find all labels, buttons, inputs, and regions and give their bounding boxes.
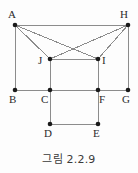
vertex-label-d: D xyxy=(44,128,52,139)
vertex-label-g: G xyxy=(122,94,130,105)
vertex-point-c xyxy=(48,88,53,93)
vertex-point-e xyxy=(96,122,101,127)
vertex-label-h: H xyxy=(120,9,128,20)
vertex-label-a: A xyxy=(8,9,16,20)
geometry-figure: AHJIBCFGDE 그림 2.2.9 xyxy=(0,0,138,173)
vertex-label-f: F xyxy=(99,94,105,105)
edge-H-J xyxy=(50,25,128,59)
vertex-label-c: C xyxy=(41,94,48,105)
edge-A-I xyxy=(15,25,98,59)
edge-A-J xyxy=(15,25,50,59)
vertex-label-j: J xyxy=(38,55,42,66)
vertex-point-j xyxy=(48,57,53,62)
vertex-point-h xyxy=(126,23,131,28)
vertex-point-i xyxy=(96,57,101,62)
figure-caption: 그림 2.2.9 xyxy=(0,150,138,166)
vertex-label-e: E xyxy=(93,128,100,139)
vertex-point-d xyxy=(48,122,53,127)
vertex-layer xyxy=(13,23,131,127)
vertex-label-i: I xyxy=(102,55,106,66)
edge-layer xyxy=(15,25,128,124)
vertex-label-b: B xyxy=(9,94,16,105)
vertex-point-f xyxy=(96,88,101,93)
vertex-point-a xyxy=(13,23,18,28)
vertex-point-g xyxy=(126,88,131,93)
geometry-diagram xyxy=(0,0,138,173)
vertex-point-b xyxy=(13,88,18,93)
